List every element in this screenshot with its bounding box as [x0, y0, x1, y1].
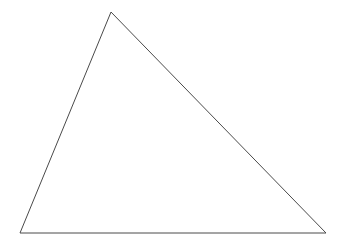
triangle-figure	[0, 0, 348, 249]
triangle-shape	[20, 12, 326, 233]
drawing-canvas	[0, 0, 348, 249]
